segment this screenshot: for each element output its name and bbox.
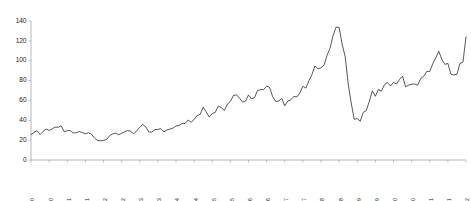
x-tick-label: Jul-11 bbox=[446, 198, 452, 201]
x-tick-label: Jan-00 bbox=[29, 198, 35, 201]
y-tick-label: 20 bbox=[19, 136, 27, 143]
y-tick-label: 0 bbox=[23, 156, 27, 163]
x-tick-label: Jan-06 bbox=[247, 198, 253, 201]
y-tick-label: 140 bbox=[16, 17, 27, 24]
x-tick-label: Jul-03 bbox=[156, 198, 162, 201]
data-series bbox=[31, 27, 466, 141]
x-tick-label: Jan-09 bbox=[356, 198, 362, 201]
x-tick-label: Jul-02 bbox=[120, 198, 126, 201]
line-chart: 020406080100120140 Jan-00Jul-00Jan-01Jul… bbox=[0, 0, 471, 201]
x-tick-label: Jan-03 bbox=[138, 198, 144, 201]
x-tick-label: Jul-04 bbox=[193, 198, 199, 201]
x-tick-label: Jul-09 bbox=[374, 198, 380, 201]
x-tick-label: Jan-05 bbox=[211, 198, 217, 201]
chart-container: 020406080100120140 Jan-00Jul-00Jan-01Jul… bbox=[0, 0, 471, 201]
x-tick-label: Jul-10 bbox=[410, 198, 416, 201]
x-tick-label: Jan-04 bbox=[174, 198, 180, 201]
x-tick-label: Jul-08 bbox=[338, 198, 344, 201]
y-tick-label: 80 bbox=[19, 76, 27, 83]
x-tick-label: Jan-02 bbox=[102, 198, 108, 201]
y-tick-label: 60 bbox=[19, 96, 27, 103]
x-tick-label: Jul-01 bbox=[84, 198, 90, 201]
x-tick-label: Jul-05 bbox=[229, 198, 235, 201]
x-tick-label: Jan-12 bbox=[464, 198, 470, 201]
y-tick-label: 40 bbox=[19, 116, 27, 123]
series-line bbox=[31, 27, 466, 141]
y-tick-label: 120 bbox=[16, 37, 27, 44]
x-tick-label: Jan-11 bbox=[428, 198, 434, 201]
x-axis: Jan-00Jul-00Jan-01Jul-01Jan-02Jul-02Jan-… bbox=[29, 160, 470, 201]
x-tick-label: Jan-10 bbox=[392, 198, 398, 201]
y-tick-label: 100 bbox=[16, 56, 27, 63]
x-tick-label: Jul-07 bbox=[301, 198, 307, 201]
x-tick-label: Jul-00 bbox=[48, 198, 54, 201]
x-tick-label: Jul-06 bbox=[265, 198, 271, 201]
x-tick-label: Jan-01 bbox=[66, 198, 72, 201]
y-axis: 020406080100120140 bbox=[16, 17, 31, 163]
x-tick-label: Jan-08 bbox=[319, 198, 325, 201]
x-tick-label: Jan-07 bbox=[283, 198, 289, 201]
